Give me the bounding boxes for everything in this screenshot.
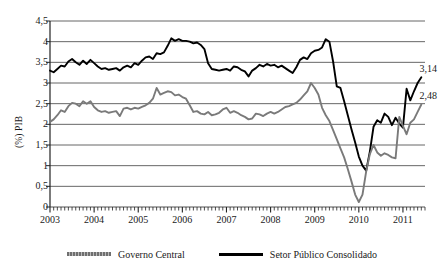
legend-swatch-black-line-icon bbox=[219, 253, 263, 256]
legend-label: Setor Público Consolidado bbox=[270, 249, 377, 260]
x-axis-tick-label: 2005 bbox=[115, 215, 161, 225]
series-line-governo-central bbox=[50, 83, 421, 202]
x-axis-tick-label: 2003 bbox=[27, 215, 73, 225]
legend-swatch-gray-line-icon bbox=[67, 252, 111, 256]
x-axis-tick-label: 2011 bbox=[380, 215, 426, 225]
plot-area bbox=[0, 0, 444, 273]
x-axis-tick-label: 2009 bbox=[292, 215, 338, 225]
x-axis-tick-label: 2004 bbox=[71, 215, 117, 225]
legend-item-setor-publico-consolidado: Setor Público Consolidado bbox=[219, 249, 377, 260]
chart-legend: Governo Central Setor Público Consolidad… bbox=[0, 242, 444, 266]
x-axis-tick-label: 2008 bbox=[248, 215, 294, 225]
series-line-setor-p-blico-consolidado bbox=[50, 38, 421, 170]
legend-label: Governo Central bbox=[118, 249, 185, 260]
legend-item-governo-central: Governo Central bbox=[67, 249, 185, 260]
x-axis-tick-label: 2006 bbox=[159, 215, 205, 225]
data-value-label: 2,48 bbox=[419, 91, 437, 101]
x-axis-tick-label: 2007 bbox=[203, 215, 249, 225]
data-value-label: 3,14 bbox=[419, 64, 437, 74]
chart-container: (%) PIB 4,543,532,521,510,50 20032004200… bbox=[0, 0, 444, 273]
x-axis-tick-label: 2010 bbox=[336, 215, 382, 225]
